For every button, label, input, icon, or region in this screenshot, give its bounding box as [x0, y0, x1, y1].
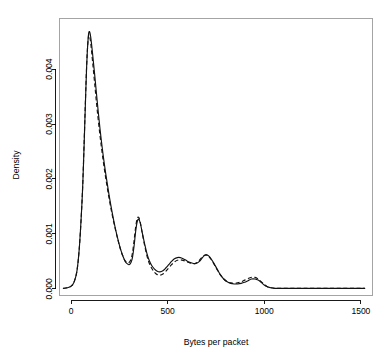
y-axis-tick-label: 0.000 [45, 278, 55, 300]
y-axis-tick-label: 0.003 [45, 113, 55, 135]
x-axis-tick-label: 1500 [351, 306, 370, 316]
figure-background [0, 0, 386, 362]
x-axis-title: Bytes per packet [184, 337, 249, 347]
y-axis-title: Density [11, 150, 21, 180]
x-axis-tick-label: 500 [161, 306, 175, 316]
y-axis-tick-label: 0.004 [45, 58, 55, 80]
density-plot-canvas: 0.0000.0010.0020.0030.004 050010001500 B… [0, 0, 386, 362]
x-axis-tick-label: 0 [69, 306, 74, 316]
y-axis-tick-label: 0.001 [45, 223, 55, 245]
y-axis-tick-label: 0.002 [45, 168, 55, 190]
density-plot-figure: 0.0000.0010.0020.0030.004 050010001500 B… [0, 0, 386, 362]
x-axis-tick-label: 1000 [255, 306, 274, 316]
